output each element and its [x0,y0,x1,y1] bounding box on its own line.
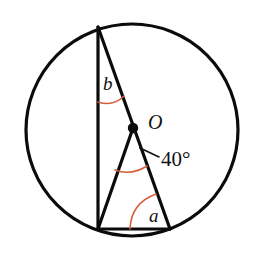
label-center-O: O [148,111,162,133]
arc-angle-b [98,96,124,104]
label-angle-b: b [103,73,113,94]
label-angle-center-40: 40° [161,147,190,171]
label-angle-a: a [149,205,159,226]
radius-center-to-bottom-left [98,128,133,229]
center-point-dot [128,123,138,133]
circle-geometry-figure: O b a 40° [0,0,257,254]
geometry-diagram-root: O b a 40° [0,0,257,254]
